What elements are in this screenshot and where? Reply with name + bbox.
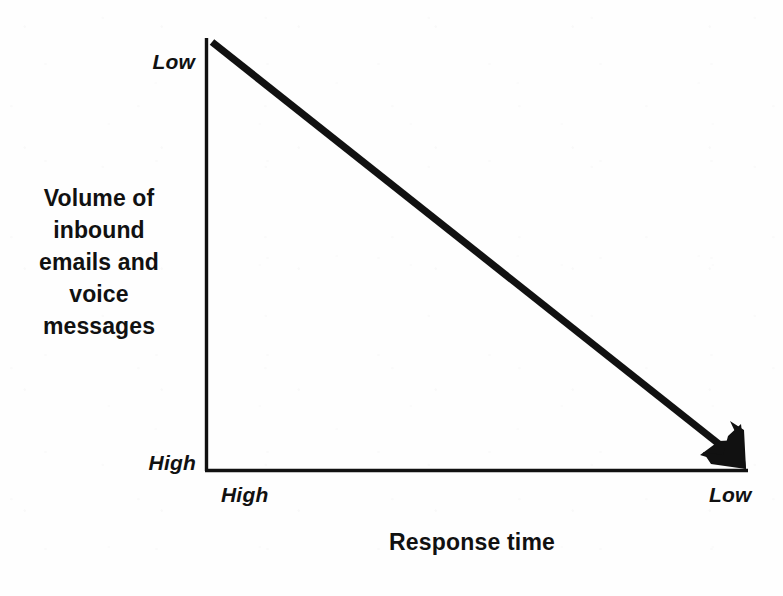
y-axis-tick-label-top: Low bbox=[152, 51, 195, 72]
x-axis-tick-label-left: High bbox=[221, 484, 268, 505]
chart-figure: Low High High Low Volume of inbound emai… bbox=[0, 0, 783, 596]
y-axis-title-line-4: voice bbox=[8, 278, 190, 310]
trend-arrow-head bbox=[700, 421, 746, 469]
y-axis-title: Volume of inbound emails and voice messa… bbox=[8, 182, 190, 342]
y-axis-title-line-5: messages bbox=[8, 310, 190, 342]
x-axis-tick-label-right: Low bbox=[709, 484, 752, 505]
y-axis-title-line-3: emails and bbox=[8, 246, 190, 278]
trend-arrow-shaft bbox=[212, 42, 729, 452]
y-axis-title-line-1: Volume of bbox=[8, 182, 190, 214]
y-axis-tick-label-bottom: High bbox=[149, 452, 196, 473]
y-axis-title-line-2: inbound bbox=[8, 214, 190, 246]
x-axis-title: Response time bbox=[332, 531, 612, 554]
